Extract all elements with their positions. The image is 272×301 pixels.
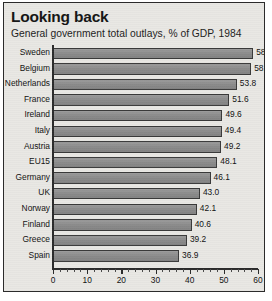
x-axis-minor-tick (74, 269, 75, 272)
x-axis-minor-tick (238, 269, 239, 272)
x-axis-major-tick (224, 269, 225, 274)
bar (53, 157, 217, 169)
x-axis-major-tick (53, 269, 54, 274)
chart-subtitle: General government total outlays, % of G… (11, 28, 241, 39)
bar-row: Netherlands53.8 (4, 77, 265, 93)
bar-value-label: 42.1 (200, 203, 216, 213)
bar-row: EU1548.1 (4, 155, 265, 171)
bar (53, 188, 200, 200)
bar-value-label: 46.1 (214, 172, 230, 182)
bar-category-label: UK (4, 187, 50, 197)
bar-category-label: Belgium (4, 63, 50, 73)
bar-chart-plot-area: Sweden58.6Belgium58.0Netherlands53.8Fran… (4, 45, 265, 291)
y-axis-line (52, 45, 54, 269)
bar-value-label: 40.6 (195, 219, 211, 229)
x-axis-major-tick (190, 269, 191, 274)
bar-category-label: France (4, 94, 50, 104)
bar-category-label: Sweden (4, 47, 50, 57)
x-axis-minor-tick (142, 269, 143, 272)
bar-value-label: 51.6 (232, 94, 248, 104)
x-axis-tick-label: 10 (82, 275, 91, 285)
bar-value-label: 39.2 (190, 234, 206, 244)
x-axis-tick-label: 30 (151, 275, 160, 285)
x-axis-tick-label: 50 (219, 275, 228, 285)
x-axis-minor-tick (67, 269, 68, 272)
bar-row: Ireland49.6 (4, 108, 265, 124)
bar-value-label: 49.2 (224, 141, 240, 151)
x-axis-minor-tick (176, 269, 177, 272)
x-axis-major-tick (121, 269, 122, 274)
page-title: Looking back (11, 8, 109, 26)
bar (53, 48, 253, 60)
x-axis-minor-tick (244, 269, 245, 272)
bar-category-label: Finland (4, 219, 50, 229)
x-axis-tick-label: 20 (117, 275, 126, 285)
bar-value-label: 49.4 (225, 125, 241, 135)
x-axis-major-tick (258, 269, 259, 274)
x-axis-minor-tick (149, 269, 150, 272)
x-axis-minor-tick (183, 269, 184, 272)
bar-value-label: 53.8 (240, 78, 256, 88)
chart-card: Looking back General government total ou… (3, 2, 265, 292)
x-axis-minor-tick (210, 269, 211, 272)
bar (53, 235, 187, 247)
x-axis-tick-label: 0 (51, 275, 56, 285)
bar-value-label: 49.6 (225, 109, 241, 119)
x-axis-minor-tick (217, 269, 218, 272)
x-axis-tick-label: 40 (185, 275, 194, 285)
x-axis-minor-tick (101, 269, 102, 272)
bar (53, 110, 222, 122)
bar (53, 172, 211, 184)
bar (53, 250, 179, 262)
bar-category-label: Greece (4, 234, 50, 244)
bar-row: Norway42.1 (4, 202, 265, 218)
bar-row: UK43.0 (4, 186, 265, 202)
bar (53, 219, 192, 231)
x-axis-minor-tick (203, 269, 204, 272)
x-axis-minor-tick (128, 269, 129, 272)
bar-row: Belgium58.0 (4, 62, 265, 78)
bar-value-label: 58.0 (254, 63, 265, 73)
bar-row: Greece39.2 (4, 233, 265, 249)
x-axis-minor-tick (60, 269, 61, 272)
bar (53, 79, 237, 91)
bar-value-label: 48.1 (220, 156, 236, 166)
bar-category-label: Spain (4, 250, 50, 260)
bar-value-label: 43.0 (203, 187, 219, 197)
bar-category-label: EU15 (4, 156, 50, 166)
bar-row: Finland40.6 (4, 218, 265, 234)
bar-row: Spain36.9 (4, 249, 265, 265)
bar-value-label: 58.6 (256, 47, 265, 57)
x-axis-major-tick (156, 269, 157, 274)
bar-row: Austria49.2 (4, 140, 265, 156)
bar-row: Germany46.1 (4, 171, 265, 187)
x-axis-minor-tick (231, 269, 232, 272)
bar-value-label: 36.9 (182, 250, 198, 260)
bar-row: France51.6 (4, 93, 265, 109)
bar-row: Italy49.4 (4, 124, 265, 140)
bar-category-label: Italy (4, 125, 50, 135)
bar (53, 63, 251, 75)
x-axis-minor-tick (94, 269, 95, 272)
bar-category-label: Norway (4, 203, 50, 213)
bar (53, 204, 197, 216)
x-axis-minor-tick (80, 269, 81, 272)
x-axis-minor-tick (135, 269, 136, 272)
bar-category-label: Netherlands (4, 78, 50, 88)
bar-category-label: Ireland (4, 109, 50, 119)
bar (53, 94, 229, 106)
bar-category-label: Austria (4, 141, 50, 151)
bar-row: Sweden58.6 (4, 46, 265, 62)
x-axis-major-tick (87, 269, 88, 274)
x-axis-minor-tick (115, 269, 116, 272)
x-axis-minor-tick (108, 269, 109, 272)
bar-category-label: Germany (4, 172, 50, 182)
bar (53, 126, 222, 138)
x-axis-minor-tick (169, 269, 170, 272)
x-axis-minor-tick (251, 269, 252, 272)
x-axis-minor-tick (162, 269, 163, 272)
bar (53, 141, 221, 153)
x-axis-tick-label: 60 (253, 275, 262, 285)
x-axis-minor-tick (197, 269, 198, 272)
